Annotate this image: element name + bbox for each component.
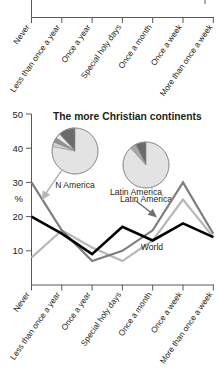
pie-n-america: N America [52,128,98,190]
y-axis-unit-label: % [15,193,24,204]
top-axis-category-labels: Never Less than once a year Once a year … [9,22,215,98]
xtick-label-4: Once a month [117,290,154,338]
ytick-label-20: 20 [12,211,23,222]
main-line-chart: The more Christian continents 50 40 30 2… [0,104,220,379]
y-axis-ticks [26,114,32,251]
ytick-label-40: 40 [12,143,23,154]
figure-root: Never Less than once a year Once a year … [0,0,220,379]
series-label-latin-america: Latin America [110,187,162,197]
top-xtick-label-0: Never [12,23,32,46]
top-xtick-label-6: More than once a week [158,22,215,98]
xtick-label-5: Once a week [149,290,184,335]
top-xtick-label-4: Once a month [117,23,154,71]
ytick-label-30: 30 [12,177,23,188]
series-label-world: World [141,242,164,252]
top-xtick-label-2: Once a year [60,23,93,65]
series-line-world [32,217,214,255]
ytick-label-50: 50 [12,109,23,120]
top-axis-ticks [32,18,214,24]
x-axis-category-labels: Never Less than once a year Once a year … [9,290,215,366]
y-axis-labels: 50 40 30 20 10 % [12,109,23,257]
xtick-label-0: Never [12,290,32,313]
top-xtick-label-5: Once a week [149,22,184,67]
xtick-label-6: More than once a week [158,290,215,366]
top-cropped-chart: Never Less than once a year Once a year … [0,0,220,110]
ytick-label-10: 10 [12,245,23,256]
x-axis-ticks [32,285,214,291]
xtick-label-2: Once a year [60,290,93,332]
pie-n-america-label: N America [55,180,95,190]
chart-title: The more Christian continents [53,111,202,122]
